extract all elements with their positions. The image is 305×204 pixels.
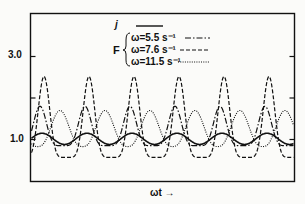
x-axis-label: ωt → bbox=[150, 187, 175, 198]
y-tick-label-3: 3.0 bbox=[8, 49, 22, 60]
legend-entry-omega-7.6: ω=7.6 s⁻¹ bbox=[131, 44, 176, 55]
legend-F-label: F bbox=[113, 44, 120, 56]
legend-entry-omega-5.5: ω=5.5 s⁻¹ bbox=[131, 32, 176, 43]
chart-canvas bbox=[0, 0, 305, 204]
axis-ticks bbox=[31, 57, 295, 140]
legend-j-label: j bbox=[115, 19, 118, 30]
curves bbox=[32, 76, 294, 157]
legend-entry-omega-11.5: ω=11.5 s⁻¹ bbox=[131, 56, 181, 67]
y-tick-label-1: 1.0 bbox=[10, 133, 24, 144]
curve-dashed bbox=[32, 76, 294, 157]
